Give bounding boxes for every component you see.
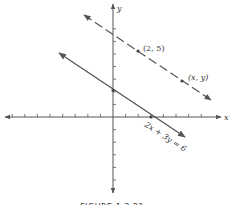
equation-label: 2x + 3y = 6 <box>142 120 188 154</box>
x-axis-label: x <box>224 113 229 122</box>
point-x-intercept <box>149 115 152 118</box>
figure-caption: FIGURE 1.3.21 <box>80 203 144 205</box>
point-x-y <box>180 79 183 82</box>
axis-ticks <box>12 29 201 180</box>
point-label-2-5: (2, 5) <box>143 44 165 53</box>
figure-diagram: y x (2, 5) (x, y) 2x + 3y = 6 FIGURE 1.3… <box>0 0 231 205</box>
given-line <box>59 53 185 137</box>
parallel-line <box>84 15 211 100</box>
point-label-x-y: (x, y) <box>188 73 208 82</box>
point-y-intercept <box>111 89 114 92</box>
y-axis-label: y <box>116 4 122 13</box>
point-2-5 <box>136 49 139 52</box>
